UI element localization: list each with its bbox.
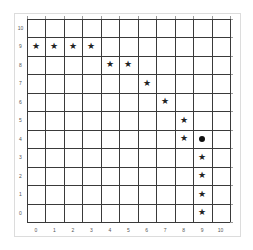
grid-line-horizontal (27, 93, 230, 94)
star-icon: ★ (193, 185, 211, 203)
x-axis-label: 10 (212, 227, 230, 233)
grid-line-vertical (212, 19, 213, 222)
star-icon: ★ (64, 37, 82, 55)
star-icon: ★ (193, 148, 211, 166)
star-icon: ★ (193, 167, 211, 185)
y-axis-label: 2 (14, 167, 27, 185)
y-axis-label: 10 (14, 19, 27, 37)
y-axis-label: 4 (14, 130, 27, 148)
x-axis-label: 3 (82, 227, 100, 233)
y-axis-label: 5 (14, 111, 27, 129)
star-icon: ★ (101, 56, 119, 74)
star-icon: ★ (82, 37, 100, 55)
grid-line-vertical (119, 19, 120, 222)
grid-line-horizontal (27, 19, 230, 20)
star-icon: ★ (27, 37, 45, 55)
grid-tick (101, 16, 102, 19)
grid-tick (45, 16, 46, 19)
star-icon: ★ (175, 130, 193, 148)
star-icon: ★ (138, 74, 156, 92)
grid-tick (230, 222, 233, 223)
grid-tick (82, 16, 83, 19)
star-icon: ★ (175, 111, 193, 129)
star-icon: ★ (119, 56, 137, 74)
x-axis-label: 7 (156, 227, 174, 233)
grid-tick (119, 16, 120, 19)
star-icon: ★ (156, 93, 174, 111)
circle-icon (199, 136, 205, 142)
y-axis-label: 9 (14, 37, 27, 55)
grid-line-vertical (101, 19, 102, 222)
grid-tick (138, 16, 139, 19)
grid-tick (64, 16, 65, 19)
grid-line-horizontal (27, 222, 230, 223)
star-icon: ★ (193, 204, 211, 222)
y-axis-label: 8 (14, 56, 27, 74)
y-axis-label: 3 (14, 148, 27, 166)
star-icon: ★ (45, 37, 63, 55)
grid-tick (175, 16, 176, 19)
x-axis-label: 9 (193, 227, 211, 233)
grid-board: ★★★★★★★★★★★★★★ (27, 19, 230, 222)
y-axis-label: 7 (14, 74, 27, 92)
x-axis-label: 2 (64, 227, 82, 233)
x-axis-label: 8 (175, 227, 193, 233)
grid-line-vertical (156, 19, 157, 222)
agent-marker (193, 130, 211, 148)
grid-line-vertical (138, 19, 139, 222)
x-axis-label: 1 (45, 227, 63, 233)
grid-line-vertical (230, 19, 231, 222)
grid-tick (230, 16, 231, 19)
grid-tick (193, 16, 194, 19)
y-axis-label: 0 (14, 204, 27, 222)
x-axis-label: 5 (119, 227, 137, 233)
grid-tick (212, 16, 213, 19)
x-axis-label: 6 (138, 227, 156, 233)
grid-tick (156, 16, 157, 19)
grid-line-horizontal (27, 111, 230, 112)
y-axis-label: 6 (14, 93, 27, 111)
grid-line-horizontal (27, 74, 230, 75)
y-axis-label: 1 (14, 185, 27, 203)
x-axis-label: 4 (101, 227, 119, 233)
x-axis-label: 0 (27, 227, 45, 233)
